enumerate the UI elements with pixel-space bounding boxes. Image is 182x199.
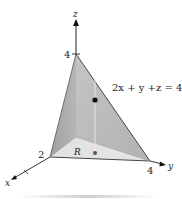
region-label: R bbox=[73, 147, 81, 157]
plane-equation-label: 2x + y +z = 4 bbox=[112, 82, 182, 93]
plane-point bbox=[92, 97, 97, 102]
bottom-shade-bar bbox=[18, 195, 158, 198]
y-axis-arrow-icon bbox=[160, 162, 167, 167]
y-intercept-label: 4 bbox=[147, 165, 153, 176]
x-intercept-label: 2 bbox=[38, 149, 44, 160]
x-axis bbox=[14, 157, 50, 178]
y-axis-label: y bbox=[167, 161, 174, 171]
region-point bbox=[93, 151, 97, 155]
tetrahedron-diagram: z 4 2x + y +z = 4 2 R 4 y x bbox=[0, 0, 182, 199]
z-intercept-label: 4 bbox=[64, 49, 70, 60]
z-axis-label: z bbox=[72, 9, 78, 19]
x-axis-arrow-icon bbox=[11, 175, 17, 180]
x-axis-label: x bbox=[5, 178, 10, 188]
z-axis-arrow-icon bbox=[73, 19, 79, 26]
